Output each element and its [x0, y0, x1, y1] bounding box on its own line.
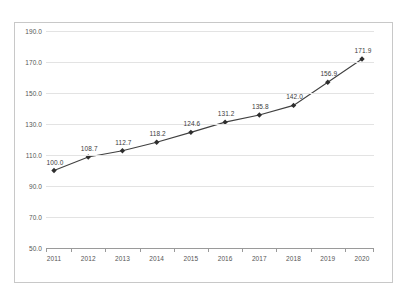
x-axis-tick-label: 2014 — [149, 255, 164, 262]
x-axis-tick — [242, 248, 243, 252]
y-axis-tick-labels: 190.0170.0150.0130.0110.090.070.050.0 — [10, 31, 42, 248]
x-axis-tick — [140, 248, 141, 252]
data-point-marker[interactable] — [188, 130, 193, 135]
x-axis-tick — [311, 248, 312, 252]
y-axis-tick-label: 190.0 — [25, 28, 42, 35]
y-axis-tick-label: 170.0 — [25, 59, 42, 66]
data-point-marker[interactable] — [51, 168, 56, 173]
y-axis-tick-label: 150.0 — [25, 90, 42, 97]
data-point-label: 135.8 — [252, 103, 269, 110]
x-axis-tick-label: 2019 — [320, 255, 335, 262]
x-axis-tick — [208, 248, 209, 252]
x-axis-tick-label: 2018 — [286, 255, 301, 262]
gridline — [46, 217, 374, 218]
x-axis-tick-label: 2013 — [115, 255, 130, 262]
plot-area: 100.0108.7112.7118.2124.6131.2135.8142.0… — [46, 31, 374, 248]
gridline — [46, 186, 374, 187]
x-axis-tick-label: 2012 — [81, 255, 96, 262]
x-axis-tick — [174, 248, 175, 252]
line-series — [46, 31, 374, 248]
data-point-label: 108.7 — [81, 145, 98, 152]
data-point-label: 142.0 — [286, 93, 303, 100]
x-axis-ticks — [46, 248, 374, 253]
data-point-label: 124.6 — [183, 120, 200, 127]
data-point-label: 171.9 — [355, 47, 372, 54]
x-axis-tick — [373, 248, 374, 252]
data-point-marker[interactable] — [257, 112, 262, 117]
x-axis-tick — [276, 248, 277, 252]
gridline — [46, 93, 374, 94]
y-axis-tick-label: 90.0 — [29, 183, 42, 190]
data-point-marker[interactable] — [120, 148, 125, 153]
data-point-label: 156.9 — [320, 70, 337, 77]
data-point-label: 131.2 — [218, 110, 235, 117]
x-axis-tick — [71, 248, 72, 252]
y-axis-tick-label: 110.0 — [26, 152, 42, 159]
data-point-label: 100.0 — [47, 159, 64, 166]
y-axis-tick-label: 50.0 — [29, 245, 42, 252]
series-line — [54, 59, 362, 170]
x-axis-tick-label: 2017 — [252, 255, 267, 262]
gridline — [46, 124, 374, 125]
y-axis-tick-label: 70.0 — [29, 214, 42, 221]
data-point-label: 112.7 — [115, 139, 131, 146]
x-axis-tick-labels: 2011201220132014201520162017201820192020 — [46, 255, 374, 267]
gridline — [46, 62, 374, 63]
x-axis-tick-label: 2020 — [355, 255, 370, 262]
data-point-label: 118.2 — [150, 130, 166, 137]
y-axis-tick-label: 130.0 — [25, 121, 42, 128]
x-axis-tick-label: 2016 — [218, 255, 233, 262]
x-axis-tick-label: 2015 — [183, 255, 198, 262]
x-axis-tick — [105, 248, 106, 252]
x-axis-tick — [345, 248, 346, 252]
chart-title — [0, 0, 408, 5]
x-axis-tick — [46, 248, 47, 252]
gridline — [46, 155, 374, 156]
data-point-marker[interactable] — [154, 140, 159, 145]
gridline — [46, 31, 374, 32]
x-axis-tick-label: 2011 — [47, 255, 61, 262]
